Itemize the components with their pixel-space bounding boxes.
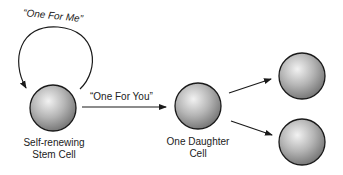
progeny-cell-upper [279, 53, 325, 99]
daughter-cell-label-line2: Cell [158, 148, 238, 160]
stem-cell [30, 85, 76, 131]
stem-cell-label-line2: Stem Cell [14, 149, 94, 161]
daughter-cell-label: One Daughter Cell [158, 136, 238, 160]
daughter-cell [175, 83, 221, 129]
one-for-you-label: “One For You” [90, 91, 153, 103]
stem-cell-label: Self-renewing Stem Cell [14, 137, 94, 161]
progeny-arrow-lower [231, 121, 272, 135]
stem-cell-label-line1: Self-renewing [14, 137, 94, 149]
progeny-arrow-upper [229, 79, 271, 93]
daughter-cell-label-line1: One Daughter [158, 136, 238, 148]
self-renewal-loop-arrow [19, 27, 93, 89]
stem-cell-division-diagram: “One For Me” “One For You” Self-renewing… [0, 0, 343, 175]
progeny-cell-lower [279, 119, 325, 165]
